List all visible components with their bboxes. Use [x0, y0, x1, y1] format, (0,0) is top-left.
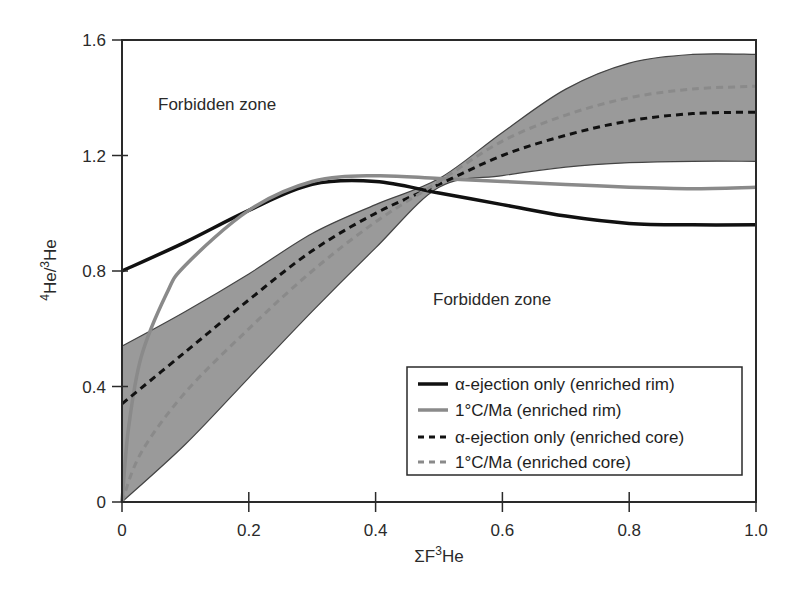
- legend-item-label: 1°C/Ma (enriched core): [455, 453, 631, 472]
- chart: 00.20.40.60.81.000.40.81.21.6 Forbidden …: [0, 0, 802, 597]
- x-tick-label: 1.0: [744, 521, 768, 540]
- y-tick-label: 0: [97, 493, 106, 512]
- forbidden-zone-upper-label: Forbidden zone: [158, 95, 276, 114]
- forbidden-zone-lower-label: Forbidden zone: [433, 290, 551, 309]
- y-tick-label: 1.6: [82, 31, 106, 50]
- legend-item-label: α-ejection only (enriched rim): [455, 375, 675, 394]
- x-tick-label: 0.4: [364, 521, 388, 540]
- series-line: [122, 180, 756, 271]
- x-tick-label: 0.8: [617, 521, 641, 540]
- legend: α-ejection only (enriched rim) 1°C/Ma (e…: [407, 367, 742, 475]
- legend-item-label: α-ejection only (enriched core): [455, 428, 684, 447]
- y-tick-label: 0.4: [82, 378, 106, 397]
- x-tick-label: 0.2: [237, 521, 261, 540]
- y-tick-label: 0.8: [82, 262, 106, 281]
- x-axis-title: ΣF3He: [414, 544, 463, 566]
- legend-item-label: 1°C/Ma (enriched rim): [455, 401, 621, 420]
- y-axis-title: 4He/3He: [38, 239, 60, 301]
- x-tick-label: 0: [117, 521, 126, 540]
- x-tick-label: 0.6: [491, 521, 515, 540]
- y-tick-label: 1.2: [82, 147, 106, 166]
